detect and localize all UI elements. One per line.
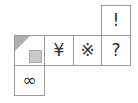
exclamation-symbol: !	[113, 12, 120, 29]
yen-symbol: ¥	[54, 42, 65, 59]
face-question: ?	[101, 35, 131, 66]
infinity-symbol: ∞	[22, 72, 36, 89]
reference-mark-symbol: ※	[80, 42, 94, 59]
face-reference-mark: ※	[73, 35, 102, 66]
face-yen: ¥	[44, 35, 74, 66]
face-infinity: ∞	[14, 65, 45, 96]
shaded-square-icon	[29, 50, 42, 63]
face-exclamation: !	[101, 5, 131, 36]
question-symbol: ?	[111, 42, 120, 59]
shaded-triangle-icon	[15, 36, 30, 51]
face-shaded	[14, 35, 45, 66]
